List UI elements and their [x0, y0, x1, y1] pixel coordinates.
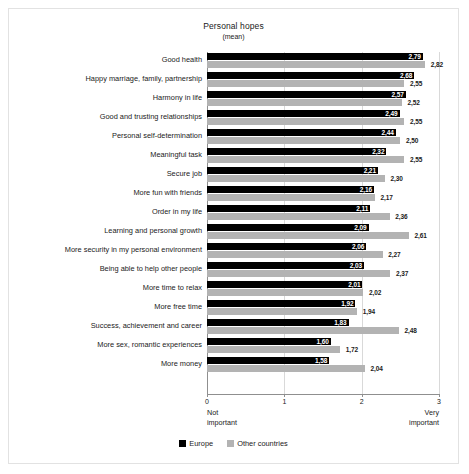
category-label: Being able to help other people [0, 262, 202, 276]
chart-row: Happy marriage, family, partnership2,682… [207, 71, 439, 90]
chart-row: Learning and personal growth2,092,61 [207, 223, 439, 242]
category-label: Secure job [0, 167, 202, 181]
chart-row: Order in my life2,112,36 [207, 204, 439, 223]
bar-other-countries: 2,50 [207, 137, 400, 144]
chart-row: Personal self-determination2,442,50 [207, 128, 439, 147]
category-label: More free time [0, 300, 202, 314]
x-tick-mark [439, 394, 440, 397]
chart-row: More time to relax2,012,02 [207, 280, 439, 299]
category-label: More security in my personal environment [0, 243, 202, 257]
category-label: Success, achievement and career [0, 319, 202, 333]
axis-anchor-low-line2: important [207, 418, 237, 428]
bar-europe: 2,16 [207, 186, 374, 193]
bar-europe: 2,21 [207, 167, 378, 174]
legend-label: Europe [189, 439, 213, 448]
legend-item[interactable]: Europe [179, 439, 213, 448]
bar-other-countries: 2,36 [207, 213, 390, 220]
chart-row: More security in my personal environment… [207, 242, 439, 261]
category-label: Good health [0, 53, 202, 67]
bar-value-label: 2,52 [408, 99, 420, 106]
chart-row: Good and trusting relationships2,492,55 [207, 109, 439, 128]
chart-title: Personal hopes [9, 21, 458, 32]
chart-subtitle: (mean) [9, 32, 458, 42]
bar-europe: 2,68 [207, 72, 414, 79]
category-label: Harmony in life [0, 91, 202, 105]
bar-value-label: 2,37 [396, 270, 408, 277]
bar-value-label: 1,94 [363, 308, 375, 315]
x-tick-mark [284, 394, 285, 397]
bar-value-label: 1,92 [341, 300, 353, 307]
bar-other-countries: 2,82 [207, 61, 425, 68]
chart-row: More fun with friends2,162,17 [207, 185, 439, 204]
bar-europe: 2,32 [207, 148, 386, 155]
bar-europe: 2,03 [207, 262, 364, 269]
bar-other-countries: 1,72 [207, 346, 340, 353]
legend-swatch-icon [227, 440, 234, 447]
bar-value-label: 2,48 [405, 327, 417, 334]
chart-figure: Personal hopes (mean) Good health2,792,8… [8, 8, 459, 464]
bar-value-label: 2,55 [410, 156, 422, 163]
bar-value-label: 2,36 [395, 213, 407, 220]
bar-europe: 2,57 [207, 91, 406, 98]
bar-value-label: 2,82 [431, 61, 443, 68]
category-label: Personal self-determination [0, 129, 202, 143]
bar-value-label: 2,17 [381, 194, 393, 201]
bar-value-label: 2,55 [410, 80, 422, 87]
bar-other-countries: 2,52 [207, 99, 402, 106]
bar-value-label: 2,44 [381, 129, 393, 136]
axis-anchor-low-line1: Not [207, 408, 237, 418]
bar-value-label: 2,79 [408, 53, 420, 60]
bar-europe: 1,92 [207, 300, 355, 307]
chart-row: More free time1,921,94 [207, 299, 439, 318]
bar-value-label: 2,27 [388, 251, 400, 258]
bar-value-label: 2,09 [354, 224, 366, 231]
chart-row: More sex, romantic experiences1,601,72 [207, 337, 439, 356]
legend-swatch-icon [179, 440, 186, 447]
bar-europe: 2,44 [207, 129, 396, 136]
x-tick-label: 2 [360, 398, 364, 405]
category-label: More time to relax [0, 281, 202, 295]
bar-other-countries: 2,55 [207, 80, 404, 87]
chart-row: Success, achievement and career1,832,48 [207, 318, 439, 337]
bar-value-label: 2,01 [348, 281, 360, 288]
x-tick-label: 1 [282, 398, 286, 405]
bar-value-label: 2,61 [415, 232, 427, 239]
bar-value-label: 2,06 [352, 243, 364, 250]
bar-other-countries: 2,37 [207, 270, 390, 277]
bar-value-label: 2,30 [391, 175, 403, 182]
bar-value-label: 2,57 [391, 91, 403, 98]
chart-row: More money1,582,04 [207, 356, 439, 375]
axis-anchor-low: Not important [207, 408, 237, 428]
bar-other-countries: 2,61 [207, 232, 409, 239]
chart-row: Harmony in life2,572,52 [207, 90, 439, 109]
category-label: Happy marriage, family, partnership [0, 72, 202, 86]
chart-row: Being able to help other people2,032,37 [207, 261, 439, 280]
bar-value-label: 2,32 [372, 148, 384, 155]
bar-value-label: 1,60 [316, 338, 328, 345]
category-label: More sex, romantic experiences [0, 338, 202, 352]
chart-legend: EuropeOther countries [9, 439, 458, 448]
bar-europe: 1,58 [207, 357, 329, 364]
bar-europe: 2,06 [207, 243, 366, 250]
x-tick-label: 0 [205, 398, 209, 405]
bar-europe: 2,79 [207, 53, 423, 60]
bar-europe: 2,49 [207, 110, 400, 117]
category-label: Good and trusting relationships [0, 110, 202, 124]
bar-value-label: 2,11 [356, 205, 368, 212]
bar-value-label: 2,50 [406, 137, 418, 144]
bar-other-countries: 2,02 [207, 289, 363, 296]
bar-europe: 1,83 [207, 319, 349, 326]
category-label: Order in my life [0, 205, 202, 219]
bar-value-label: 2,21 [364, 167, 376, 174]
bar-value-label: 2,16 [360, 186, 372, 193]
bar-value-label: 2,68 [400, 72, 412, 79]
bar-other-countries: 2,27 [207, 251, 383, 258]
bar-value-label: 1,72 [346, 346, 358, 353]
category-label: Meaningful task [0, 148, 202, 162]
bar-europe: 1,60 [207, 338, 331, 345]
category-label: Learning and personal growth [0, 224, 202, 238]
axis-anchor-high-line2: important [409, 418, 439, 428]
category-label: More money [0, 357, 202, 371]
bar-other-countries: 2,17 [207, 194, 375, 201]
legend-item[interactable]: Other countries [227, 439, 288, 448]
